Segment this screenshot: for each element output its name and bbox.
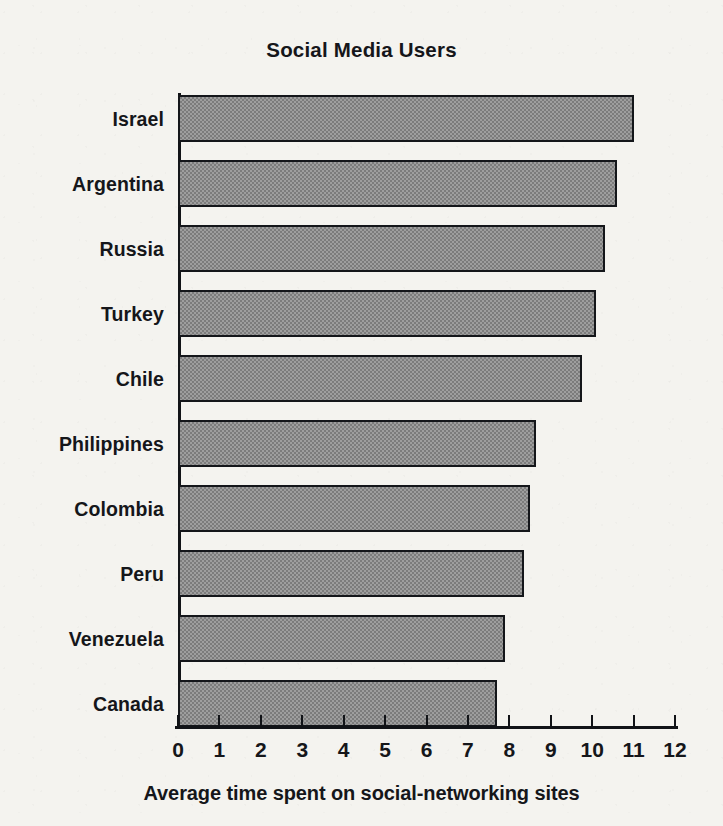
bar (178, 680, 497, 727)
x-axis-tick-label: 2 (255, 738, 267, 762)
bar-row: Peru (178, 550, 524, 597)
bar-row: Canada (178, 680, 497, 727)
bar-row: Russia (178, 225, 605, 272)
x-axis-tick (301, 715, 303, 726)
bar-category-label: Turkey (101, 302, 164, 325)
x-axis-tick-label: 6 (421, 738, 433, 762)
bar-category-label: Colombia (74, 497, 164, 520)
bar (178, 95, 634, 142)
bar-category-label: Argentina (72, 172, 164, 195)
bar-row: Colombia (178, 485, 530, 532)
x-axis-title: Average time spent on social-networking … (0, 782, 723, 805)
bar-row: Israel (178, 95, 634, 142)
bar-category-label: Canada (93, 692, 164, 715)
bar-category-label: Philippines (59, 432, 164, 455)
x-axis-tick-label: 8 (503, 738, 515, 762)
x-axis-tick (218, 715, 220, 726)
x-axis-tick (508, 715, 510, 726)
x-axis-tick (260, 715, 262, 726)
x-axis-tick-label: 0 (172, 738, 184, 762)
bar-row: Turkey (178, 290, 596, 337)
x-axis-tick-label: 12 (663, 738, 686, 762)
bar-row: Chile (178, 355, 582, 402)
bar (178, 290, 596, 337)
x-axis-tick (674, 715, 676, 726)
bar (178, 485, 530, 532)
bar-row: Philippines (178, 420, 536, 467)
bar-chart-figure: Social Media Users IsraelArgentinaRussia… (0, 0, 723, 826)
bar-row: Argentina (178, 160, 617, 207)
x-axis-tick (591, 715, 593, 726)
plot-area: IsraelArgentinaRussiaTurkeyChilePhilippi… (178, 93, 675, 726)
x-axis-tick (177, 715, 179, 726)
bar (178, 225, 605, 272)
x-axis-tick-label: 9 (545, 738, 557, 762)
x-axis-tick-label: 1 (214, 738, 226, 762)
bar-category-label: Venezuela (69, 627, 164, 650)
bar (178, 160, 617, 207)
x-axis-tick (343, 715, 345, 726)
x-axis-tick-label: 10 (580, 738, 603, 762)
x-axis: 0123456789101112 (178, 726, 675, 727)
bar-category-label: Peru (120, 562, 164, 585)
x-axis-tick (384, 715, 386, 726)
bar-row: Venezuela (178, 615, 505, 662)
x-axis-tick (426, 715, 428, 726)
bar (178, 550, 524, 597)
x-axis-tick-label: 4 (338, 738, 350, 762)
x-axis-tick-label: 5 (379, 738, 391, 762)
x-axis-tick (633, 715, 635, 726)
bar (178, 615, 505, 662)
bar (178, 420, 536, 467)
bar (178, 355, 582, 402)
bar-category-label: Israel (112, 107, 164, 130)
x-axis-tick-label: 3 (296, 738, 308, 762)
x-axis-line (175, 726, 678, 729)
bar-category-label: Russia (99, 237, 164, 260)
x-axis-tick-label: 7 (462, 738, 474, 762)
x-axis-tick (467, 715, 469, 726)
bar-category-label: Chile (116, 367, 164, 390)
chart-title: Social Media Users (0, 38, 723, 62)
x-axis-tick-label: 11 (622, 738, 644, 762)
x-axis-tick (550, 715, 552, 726)
